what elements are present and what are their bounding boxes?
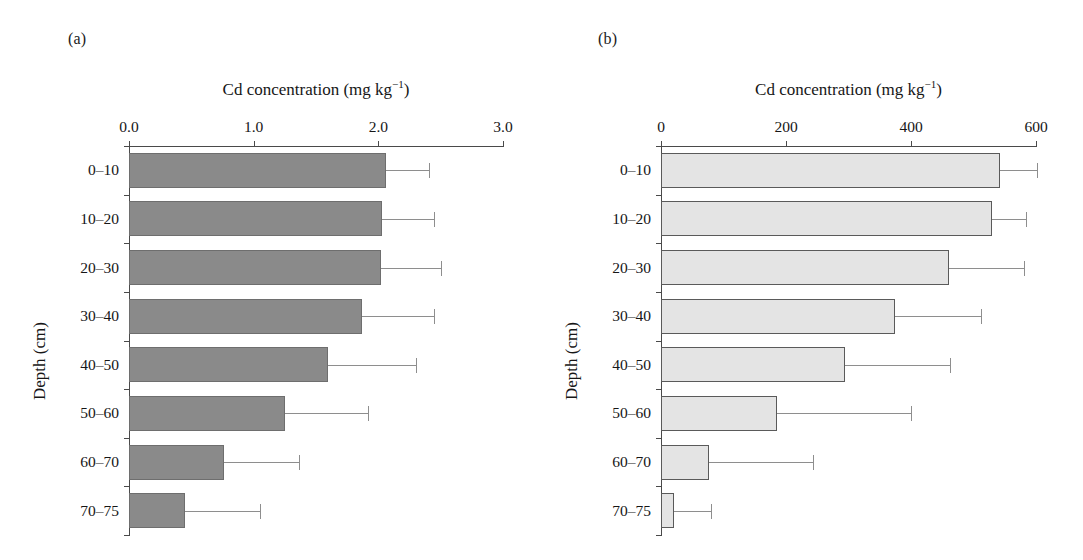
panel-b-bar [661, 493, 674, 528]
panel-b-ytick [656, 389, 662, 390]
panel-b-ytick-label: 50–60 [581, 404, 651, 422]
panel-b-x-axis-title-main: Cd concentration (mg kg [755, 80, 925, 99]
panel-b-ytick-label: 40–50 [581, 356, 651, 374]
panel-b-bar [661, 201, 992, 236]
panel-a-bar [129, 493, 185, 528]
panel-a-bar [129, 153, 386, 188]
panel-a-error-bar-line [362, 316, 434, 317]
panel-a-error-bar-cap [429, 163, 430, 178]
panel-b-ytick-label: 30–40 [581, 307, 651, 325]
panel-a-error-bar-line [224, 462, 299, 463]
panel-b-ytick-label: 10–20 [581, 210, 651, 228]
panel-a-error-bar-cap [368, 406, 369, 421]
panel-a-ytick [124, 195, 130, 196]
panel-b-bar [661, 347, 845, 382]
panel-a-x-axis-line [129, 146, 503, 147]
panel-a-bar [129, 445, 224, 480]
panel-b-error-bar-cap [911, 406, 912, 421]
panel-b-bar [661, 153, 1000, 188]
panel-a-plot-area: 0.01.02.03.00–1010–2020–3030–4040–5050–6… [129, 146, 503, 535]
panel-a-error-bar-cap [441, 261, 442, 276]
panel-b-error-bar-line [674, 511, 711, 512]
panel-b-error-bar-cap [950, 358, 951, 373]
panel-b-xtick [1036, 141, 1037, 147]
panel-b-xtick-label: 400 [899, 118, 922, 136]
panel-a-ytick [124, 438, 130, 439]
panel-b-ytick [656, 243, 662, 244]
panel-a-error-bar-line [328, 365, 415, 366]
panel-b-ytick-label: 70–75 [581, 502, 651, 520]
panel-b-ytick [656, 292, 662, 293]
panel-a-xtick-label: 2.0 [369, 118, 388, 136]
panel-b-bar [661, 250, 949, 285]
panel-a-bar [129, 347, 328, 382]
panel-b-error-bar-cap [1026, 212, 1027, 227]
panel-a-bar [129, 396, 285, 431]
panel-a-xtick-label: 1.0 [244, 118, 263, 136]
panel-a-xtick [378, 141, 379, 147]
figure-root: (a) Cd concentration (mg kg−1) Depth (cm… [0, 0, 1083, 560]
panel-b-xtick [786, 141, 787, 147]
panel-b-bar [661, 396, 777, 431]
panel-b-letter: (b) [598, 30, 617, 48]
panel-a-ytick [124, 389, 130, 390]
panel-b-error-bar-line [845, 365, 949, 366]
panel-b-error-bar-line [949, 268, 1024, 269]
panel-a-ytick-label: 40–50 [49, 356, 119, 374]
panel-a-ytick-label: 60–70 [49, 453, 119, 471]
panel-a-letter: (a) [68, 30, 86, 48]
panel-a-bar [129, 250, 381, 285]
panel-a-x-axis-title-tail: ) [404, 80, 410, 99]
panel-a-error-bar-cap [434, 309, 435, 324]
panel-a-ytick [124, 292, 130, 293]
panel-a-ytick [124, 341, 130, 342]
panel-a-ytick-label: 50–60 [49, 404, 119, 422]
panel-b-error-bar-cap [711, 504, 712, 519]
panel-b-error-bar-cap [981, 309, 982, 324]
panel-a-error-bar-line [381, 268, 441, 269]
panel-b-error-bar-line [777, 413, 911, 414]
panel-a-x-axis-title-sup: −1 [392, 78, 404, 90]
panel-b-x-axis-title-tail: ) [936, 80, 942, 99]
panel-a-error-bar-cap [434, 212, 435, 227]
panel-b-error-bar-line [895, 316, 981, 317]
panel-a: (a) Cd concentration (mg kg−1) Depth (cm… [0, 0, 540, 560]
panel-a-ytick-label: 20–30 [49, 259, 119, 277]
panel-a-error-bar-cap [416, 358, 417, 373]
panel-a-ytick-label: 70–75 [49, 502, 119, 520]
panel-a-bar [129, 201, 382, 236]
panel-a-ytick [124, 535, 130, 536]
panel-b-error-bar-cap [1037, 163, 1038, 178]
panel-a-xtick-label: 3.0 [493, 118, 512, 136]
panel-b-ytick [656, 146, 662, 147]
panel-b-xtick-label: 600 [1024, 118, 1047, 136]
panel-b-error-bar-line [709, 462, 813, 463]
panel-a-ytick [124, 486, 130, 487]
panel-a-ytick-label: 30–40 [49, 307, 119, 325]
panel-b-xtick-label: 200 [774, 118, 797, 136]
panel-b-bar [661, 445, 709, 480]
panel-b-error-bar-line [992, 219, 1026, 220]
panel-a-xtick [254, 141, 255, 147]
panel-b-ytick [656, 341, 662, 342]
panel-a-error-bar-line [185, 511, 260, 512]
panel-b-x-axis-line [661, 146, 1036, 147]
panel-b-ytick [656, 486, 662, 487]
panel-a-x-axis-title: Cd concentration (mg kg−1) [129, 78, 503, 100]
panel-a-ytick [124, 146, 130, 147]
panel-b-y-axis-title: Depth (cm) [562, 322, 582, 400]
panel-b-ytick [656, 535, 662, 536]
panel-a-ytick-label: 0–10 [49, 161, 119, 179]
panel-b-error-bar-cap [1024, 261, 1025, 276]
panel-a-error-bar-cap [299, 455, 300, 470]
panel-a-xtick-label: 0.0 [119, 118, 138, 136]
panel-a-error-bar-line [285, 413, 369, 414]
panel-b-bar [661, 299, 895, 334]
panel-a-bar [129, 299, 362, 334]
panel-a-x-axis-title-main: Cd concentration (mg kg [223, 80, 393, 99]
panel-b-ytick-label: 0–10 [581, 161, 651, 179]
panel-b-error-bar-cap [813, 455, 814, 470]
panel-b-xtick-label: 0 [657, 118, 665, 136]
panel-b-ytick [656, 438, 662, 439]
panel-b: (b) Cd concentration (mg kg−1) Depth (cm… [540, 0, 1083, 560]
